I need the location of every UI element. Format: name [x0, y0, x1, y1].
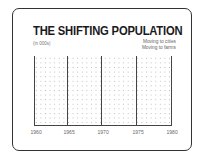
x-tick-1965: 1965 [64, 129, 75, 135]
legend: Moving to cities Moving to farms [142, 39, 176, 51]
plot-area [34, 56, 172, 126]
x-tick-1975: 1975 [133, 129, 144, 135]
gridline-1970 [101, 56, 102, 126]
legend-item-farms: Moving to farms [142, 45, 176, 51]
x-tick-1960: 1960 [31, 129, 42, 135]
x-tick-1980: 1980 [167, 129, 178, 135]
x-axis-line [34, 125, 172, 126]
gridline-1965 [67, 56, 68, 126]
gridline-1975 [136, 56, 137, 126]
dotted-grid [34, 56, 172, 126]
gridline-1960 [34, 56, 35, 126]
units-label: (in 000s) [33, 41, 51, 46]
gridline-1980 [171, 56, 172, 126]
x-tick-1970: 1970 [98, 129, 109, 135]
chart-title: THE SHIFTING POPULATION [33, 24, 166, 38]
